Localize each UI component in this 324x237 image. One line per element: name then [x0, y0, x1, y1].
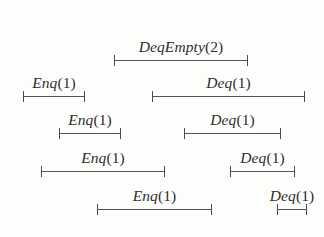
- interval-start-tick: [97, 204, 98, 215]
- operation-name: Enq: [81, 149, 106, 166]
- interval-end-tick: [294, 166, 295, 177]
- operation-argument: (1): [106, 149, 124, 166]
- interval-label: Enq(1): [68, 112, 112, 128]
- operation-name: DeqEmpty: [139, 38, 205, 55]
- interval-end-tick: [84, 91, 85, 102]
- operation-name: Deq: [210, 111, 236, 128]
- interval-bar-line: [184, 133, 281, 134]
- operation-argument: (2): [205, 38, 223, 55]
- interval-label: Deq(1): [240, 150, 285, 166]
- interval-end-tick: [304, 91, 305, 102]
- interval-label: DeqEmpty(2): [139, 39, 224, 55]
- interval-bar-line: [152, 96, 305, 97]
- operation-name: Enq: [32, 74, 57, 91]
- interval-label: Enq(1): [133, 188, 177, 204]
- interval-bar-line: [277, 209, 307, 210]
- interval-timeline-diagram: DeqEmpty(2)Enq(1)Deq(1)Enq(1)Deq(1)Enq(1…: [0, 0, 324, 237]
- interval-start-tick: [41, 166, 42, 177]
- interval-start-tick: [277, 204, 278, 215]
- interval-start-tick: [23, 91, 24, 102]
- operation-name: Deq: [206, 74, 232, 91]
- operation-argument: (1): [236, 111, 254, 128]
- interval-bar-line: [114, 60, 248, 61]
- interval-start-tick: [59, 128, 60, 139]
- operation-name: Enq: [68, 111, 93, 128]
- operation-argument: (1): [296, 187, 314, 204]
- interval-end-tick: [280, 128, 281, 139]
- interval-end-tick: [211, 204, 212, 215]
- interval-label: Enq(1): [32, 75, 76, 91]
- interval-end-tick: [164, 166, 165, 177]
- interval-bar-line: [97, 209, 212, 210]
- interval-end-tick: [120, 128, 121, 139]
- interval-bar-line: [230, 171, 295, 172]
- operation-name: Enq: [133, 187, 158, 204]
- operation-name: Deq: [240, 149, 266, 166]
- operation-argument: (1): [158, 187, 176, 204]
- interval-start-tick: [152, 91, 153, 102]
- interval-bar-line: [59, 133, 121, 134]
- interval-label: Enq(1): [81, 150, 125, 166]
- interval-start-tick: [184, 128, 185, 139]
- interval-bar-line: [41, 171, 165, 172]
- operation-argument: (1): [266, 149, 284, 166]
- operation-name: Deq: [270, 187, 296, 204]
- operation-argument: (1): [232, 74, 250, 91]
- interval-label: Deq(1): [270, 188, 315, 204]
- operation-argument: (1): [57, 74, 75, 91]
- interval-start-tick: [114, 55, 115, 66]
- interval-label: Deq(1): [210, 112, 255, 128]
- interval-start-tick: [230, 166, 231, 177]
- operation-argument: (1): [93, 111, 111, 128]
- interval-end-tick: [306, 204, 307, 215]
- interval-bar-line: [23, 96, 85, 97]
- interval-end-tick: [247, 55, 248, 66]
- interval-label: Deq(1): [206, 75, 251, 91]
